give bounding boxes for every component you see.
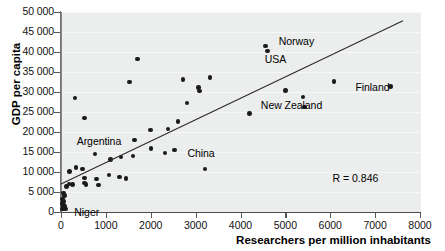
x-tick-label: 2000 <box>139 219 162 231</box>
gridline-horizontal <box>62 112 421 113</box>
x-tick-label: 8000 <box>408 219 431 231</box>
data-point <box>332 79 337 84</box>
data-point <box>74 165 79 170</box>
data-point <box>108 157 113 162</box>
y-tick-label: 5 000 <box>2 185 54 197</box>
y-tick-mark <box>54 172 60 173</box>
x-tick-mark <box>420 213 421 218</box>
x-tick-label: 4000 <box>229 219 252 231</box>
data-point <box>247 111 252 116</box>
y-axis-title: GDP per capita <box>10 24 22 144</box>
x-tick-label: 1000 <box>94 219 117 231</box>
y-tick-mark <box>54 212 60 213</box>
x-tick-label: 6000 <box>319 219 342 231</box>
point-label-niger: Niger <box>74 206 99 218</box>
x-tick-label: 0 <box>58 219 64 231</box>
x-tick-mark <box>241 213 242 218</box>
y-tick-label: 15 000 <box>2 145 54 157</box>
data-point <box>82 176 87 181</box>
y-tick-mark <box>54 132 60 133</box>
x-tick-label: 5000 <box>274 219 297 231</box>
data-point <box>124 176 129 181</box>
gridline-horizontal <box>62 152 421 153</box>
data-point <box>117 175 122 180</box>
data-point <box>67 169 72 174</box>
point-label-china: China <box>187 147 214 159</box>
scatter-chart-figure: 05 00010 00015 00020 00025 00030 00035 0… <box>0 0 445 251</box>
y-tick-mark <box>54 192 60 193</box>
x-tick-mark <box>106 213 107 218</box>
data-point <box>135 57 140 62</box>
x-tick-mark <box>151 213 152 218</box>
gridline-horizontal <box>62 32 421 33</box>
data-point <box>132 138 137 143</box>
gridline-horizontal <box>62 12 421 13</box>
data-point <box>172 148 177 153</box>
point-label-norway: Norway <box>279 35 314 47</box>
y-tick-mark <box>54 92 60 93</box>
data-point <box>82 116 87 121</box>
x-tick-mark <box>196 213 197 218</box>
y-axis-line <box>60 11 61 213</box>
x-tick-mark <box>285 213 286 218</box>
gridline-horizontal <box>62 132 421 133</box>
y-tick-label: 50 000 <box>2 5 54 17</box>
x-tick-mark <box>330 213 331 218</box>
data-point <box>84 182 89 187</box>
point-label-argentina: Argentina <box>77 135 122 147</box>
data-point <box>283 88 288 93</box>
gridline-horizontal <box>62 192 421 193</box>
y-tick-mark <box>54 32 60 33</box>
gridline-horizontal <box>62 72 421 73</box>
y-tick-mark <box>54 72 60 73</box>
y-tick-mark <box>54 112 60 113</box>
data-point <box>197 89 202 94</box>
x-axis-title: Researchers per million inhabitants <box>0 234 445 246</box>
gridline-horizontal <box>62 52 421 53</box>
y-tick-mark <box>54 152 60 153</box>
y-tick-mark <box>54 12 60 13</box>
y-tick-label: 0 <box>2 205 54 217</box>
x-tick-label: 7000 <box>363 219 386 231</box>
data-point <box>208 75 213 80</box>
point-label-usa: USA <box>265 53 286 65</box>
point-label-finland: Finland <box>355 81 389 93</box>
data-point <box>70 182 75 187</box>
x-tick-mark <box>61 213 62 218</box>
correlation-annotation: R = 0.846 <box>332 172 378 184</box>
data-point <box>96 183 101 188</box>
point-label-new-zealand: New Zealand <box>261 99 322 111</box>
y-tick-mark <box>54 52 60 53</box>
y-tick-label: 10 000 <box>2 165 54 177</box>
x-tick-mark <box>375 213 376 218</box>
x-tick-label: 3000 <box>184 219 207 231</box>
